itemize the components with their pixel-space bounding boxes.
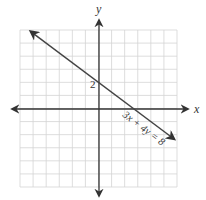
y-intercept-label: 2 [90, 78, 96, 90]
coordinate-graph: y x 2 3x + 4y = 8 [0, 0, 206, 200]
y-axis-label: y [95, 2, 102, 16]
x-axis-label: x [193, 102, 200, 116]
line-3x-4y-8 [30, 31, 174, 139]
